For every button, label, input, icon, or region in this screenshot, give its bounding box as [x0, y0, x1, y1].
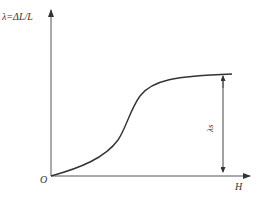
x-axis-label: H — [234, 181, 243, 192]
origin-label: O — [40, 174, 47, 185]
magnetostriction-diagram: λ=ΔL/L H O λs — [0, 0, 261, 202]
saturation-label: λs — [205, 124, 215, 133]
y-axis-label: λ=ΔL/L — [1, 11, 33, 22]
